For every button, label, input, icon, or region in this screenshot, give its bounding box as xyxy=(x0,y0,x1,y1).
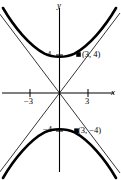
point-marker-3-4 xyxy=(76,52,81,57)
y-tick-label-neg4: −4 xyxy=(43,125,52,134)
hyperbola-figure: y x −3 3 4 −4 (3, 4) (3, −4) xyxy=(0,0,121,180)
x-axis-label: x xyxy=(111,88,115,97)
x-tick-label-neg3: −3 xyxy=(24,97,33,106)
x-tick-label-pos3: 3 xyxy=(85,97,89,106)
plot-canvas xyxy=(0,0,121,180)
y-tick-label-pos4: 4 xyxy=(47,50,51,59)
point-label-3-neg4: (3, −4) xyxy=(78,126,101,135)
y-axis-label: y xyxy=(57,1,61,10)
point-label-3-4: (3, 4) xyxy=(82,50,100,59)
